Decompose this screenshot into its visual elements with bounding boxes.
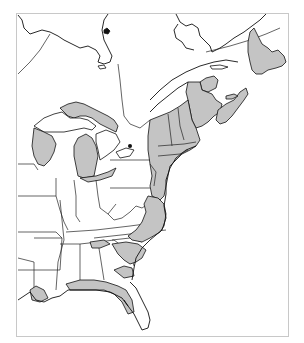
border-ohio <box>96 180 116 214</box>
region-newfoundland[interactable] <box>248 28 286 74</box>
region-wisconsin-up[interactable] <box>32 128 56 166</box>
border-indiana <box>74 180 80 222</box>
border-ontario-quebec <box>118 64 150 128</box>
border-manitoba-ontario <box>18 34 50 74</box>
region-louisiana-coast[interactable] <box>30 286 48 302</box>
region-michigan[interactable] <box>74 134 98 178</box>
lake-dot <box>128 144 132 148</box>
lake-small <box>98 65 106 69</box>
border-texas-louisiana <box>18 258 34 290</box>
region-carolinas-coast[interactable] <box>112 242 146 264</box>
region-ga-coast[interactable] <box>114 266 134 278</box>
ungava-coast <box>174 24 194 50</box>
region-gaspe[interactable] <box>200 76 218 92</box>
island-akimiski <box>104 28 110 34</box>
anticosti-island <box>210 65 228 69</box>
border-missouri <box>18 232 62 238</box>
hudson-bay-coast <box>18 14 112 64</box>
lake-ontario <box>116 148 134 158</box>
border-minnesota-wisconsin <box>18 164 38 170</box>
border-mississippi-river <box>56 200 64 290</box>
region-mid-atlantic-coast[interactable] <box>128 196 166 242</box>
map-canvas <box>0 0 304 343</box>
border-mississippi <box>60 244 80 282</box>
lake-huron <box>96 130 120 160</box>
region-gulf-coast-east[interactable] <box>66 280 134 314</box>
